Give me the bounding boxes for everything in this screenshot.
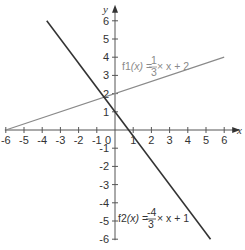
svg-text:f1(x) =: f1(x) =	[122, 60, 152, 72]
x-axis-label: x	[236, 124, 242, 136]
y-tick-label: -3	[99, 179, 109, 191]
y-tick-label: 4	[103, 51, 109, 63]
x-tick-label: 1	[130, 134, 136, 146]
y-axis-arrow-icon	[112, 5, 118, 13]
x-tick-label: -5	[19, 134, 29, 146]
origin-label: 0	[105, 134, 111, 146]
x-tick-label: -2	[74, 134, 84, 146]
function-plot: -6-5-4-3-2-1123456-6-5-4-3-2-1123456 x y…	[0, 0, 245, 250]
y-tick-label: 6	[103, 15, 109, 27]
y-axis-label: y	[102, 3, 108, 15]
y-tick-label: 3	[103, 69, 109, 81]
f2-rest: × x + 1	[157, 212, 189, 224]
y-tick-label: 5	[103, 33, 109, 45]
x-tick-label: -3	[56, 134, 66, 146]
x-tick-label: 6	[221, 134, 227, 146]
x-tick-label: -6	[1, 134, 11, 146]
f2-equation-label: f2(x) = -4 3 × x + 1	[118, 206, 189, 230]
svg-text:f2(x) =: f2(x) =	[118, 212, 148, 224]
y-tick-label: -2	[99, 160, 109, 172]
x-tick-label: 3	[167, 134, 173, 146]
f2-denominator: 3	[148, 218, 154, 230]
y-tick-label: -5	[99, 215, 109, 227]
x-tick-label: 5	[203, 134, 209, 146]
f1-rest: × x + 2	[157, 60, 189, 72]
x-tick-label: 2	[148, 134, 154, 146]
f2-numerator: -4	[147, 206, 156, 218]
y-tick-label: 1	[103, 106, 109, 118]
x-tick-label: -4	[37, 134, 47, 146]
x-tick-label: 4	[185, 134, 191, 146]
y-tick-label: -6	[99, 233, 109, 245]
y-tick-label: 2	[103, 88, 109, 100]
y-tick-label: -4	[99, 197, 109, 209]
f1-equation-label: f1(x) = 1 3 × x + 2	[122, 54, 189, 78]
